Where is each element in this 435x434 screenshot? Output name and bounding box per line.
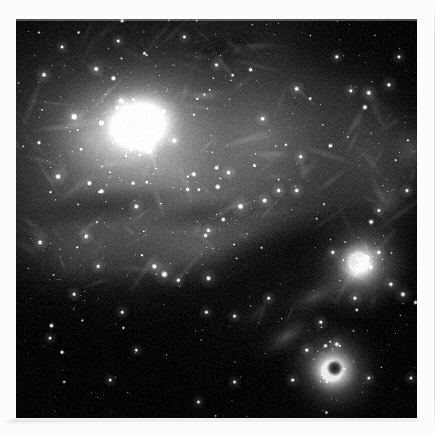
nebula-star-field-image (16, 19, 417, 418)
astronomical-photograph-plate (16, 19, 417, 418)
plate-drop-shadow-secondary (6, 421, 186, 423)
plate-caption (16, 424, 417, 432)
page-background (0, 0, 435, 434)
